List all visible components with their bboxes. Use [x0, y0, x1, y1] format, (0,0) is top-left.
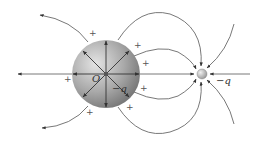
sphere-center-label: O: [92, 73, 100, 84]
point-charge-label: −q: [216, 75, 231, 86]
plus-sign: +: [134, 40, 142, 50]
sphere-center-dot: [104, 72, 108, 76]
plus-sign: +: [64, 74, 72, 84]
point-charge-body: [197, 69, 207, 79]
field-line-lower-right: [207, 80, 234, 124]
plus-sign: +: [140, 83, 148, 93]
field-line-upper-left: [40, 15, 88, 42]
field-line-lower-left: [42, 106, 88, 128]
field-line-diagram: O −q + + + + + + + −q: [0, 0, 260, 143]
plus-sign: +: [142, 58, 150, 68]
field-line-upper-right: [207, 24, 234, 68]
sphere-charge-label: −q: [112, 83, 127, 94]
plus-sign: +: [86, 107, 94, 117]
plus-sign: +: [89, 28, 97, 38]
plus-sign: +: [126, 102, 134, 112]
charged-sphere: O −q: [72, 40, 140, 108]
point-charge: −q: [197, 69, 231, 86]
